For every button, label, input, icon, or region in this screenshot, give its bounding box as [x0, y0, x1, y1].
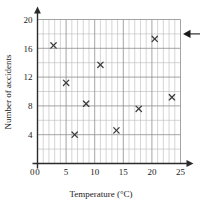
x-tick-label: 25 — [176, 167, 186, 177]
tick-labels: 0510152025048121620 — [24, 15, 186, 177]
y-tick-label: 4 — [28, 130, 33, 140]
y-tick-label: 20 — [24, 15, 34, 25]
chart-canvas: 0510152025048121620 Temperature (°C) Num… — [0, 0, 202, 202]
x-axis-title: Temperature (°C) — [69, 189, 132, 199]
y-tick-label: 8 — [28, 101, 33, 111]
y-tick-label: 16 — [24, 44, 34, 54]
y-axis-arrowhead — [34, 7, 41, 14]
x-tick-label: 5 — [64, 167, 69, 177]
data-points — [51, 36, 175, 137]
x-tick-label: 10 — [90, 167, 100, 177]
y-tick-label: 0 — [30, 167, 35, 177]
left-pointing-arrow-icon — [183, 30, 200, 38]
x-tick-label: 15 — [119, 167, 129, 177]
annotations — [183, 30, 200, 38]
x-axis-arrowhead — [187, 160, 194, 167]
y-tick-label: 12 — [24, 72, 33, 82]
grid-minor-lines — [38, 20, 181, 164]
data-point-marker — [51, 43, 56, 48]
x-tick-label: 20 — [147, 167, 157, 177]
data-point-marker — [169, 95, 174, 100]
y-axis-title: Number of accidents — [3, 54, 13, 129]
data-point-marker — [114, 128, 119, 133]
arrow-head — [183, 30, 191, 38]
scatter-chart: 0510152025048121620 Temperature (°C) Num… — [0, 0, 202, 202]
data-point-marker — [152, 36, 157, 41]
x-tick-label: 0 — [35, 167, 40, 177]
